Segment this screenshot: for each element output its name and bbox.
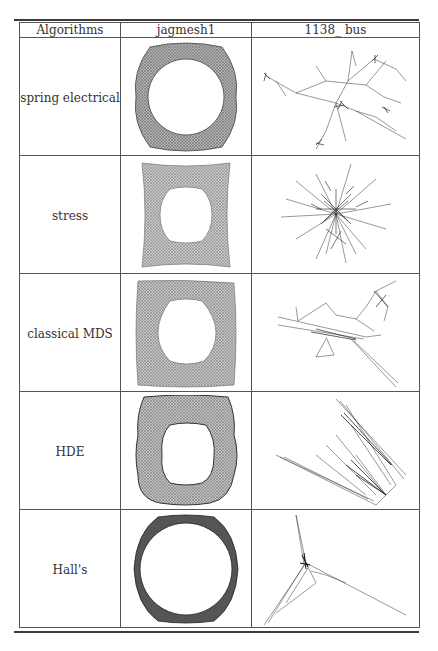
algorithm-label: stress (52, 209, 88, 223)
header-row: Algorithms jagmesh1 1138_ bus (20, 23, 420, 38)
algorithm-cell: stress (20, 156, 121, 274)
1138-bus-drawing-cell (252, 156, 420, 274)
1138-bus-drawing-cell (252, 274, 420, 392)
algorithm-cell: Hall's (20, 510, 121, 628)
jagmesh1-spring-electrical-drawing (130, 41, 242, 153)
1138-bus-drawing-cell (252, 38, 420, 156)
algorithm-label: classical MDS (27, 327, 113, 341)
header-1138-bus: 1138_ bus (252, 23, 420, 38)
1138-bus-spring-electrical-drawing (256, 41, 416, 153)
table-row: HDE (20, 392, 420, 510)
jagmesh1-stress-drawing (130, 159, 242, 271)
algorithm-label: Hall's (53, 563, 88, 577)
algorithm-label: spring electrical (20, 91, 120, 105)
algorithm-cell: spring electrical (20, 38, 121, 156)
bottom-rule (14, 631, 419, 633)
table-row: spring electrical (20, 38, 420, 156)
table-row: classical MDS (20, 274, 420, 392)
1138-bus-stress-drawing (256, 159, 416, 271)
jagmesh1-classical-mds-drawing (130, 277, 242, 389)
algorithm-label: HDE (56, 445, 85, 459)
table-row: Hall's (20, 510, 420, 628)
jagmesh1-drawing-cell (121, 392, 252, 510)
table-row: stress (20, 156, 420, 274)
1138-bus-drawing-cell (252, 510, 420, 628)
1138-bus-classical-mds-drawing (256, 277, 416, 389)
jagmesh1-drawing-cell (121, 156, 252, 274)
1138-bus-hde-drawing (256, 395, 416, 507)
jagmesh1-drawing-cell (121, 510, 252, 628)
header-algorithms: Algorithms (20, 23, 121, 38)
1138-bus-drawing-cell (252, 392, 420, 510)
top-rule (14, 19, 419, 21)
algorithm-cell: HDE (20, 392, 121, 510)
jagmesh1-halls-drawing (130, 513, 242, 625)
jagmesh1-drawing-cell (121, 38, 252, 156)
header-jagmesh1: jagmesh1 (121, 23, 252, 38)
1138-bus-halls-drawing (256, 513, 416, 625)
algorithm-cell: classical MDS (20, 274, 121, 392)
jagmesh1-drawing-cell (121, 274, 252, 392)
jagmesh1-hde-drawing (130, 395, 242, 507)
layout-comparison-table: Algorithms jagmesh1 1138_ bus spring ele… (19, 22, 420, 628)
